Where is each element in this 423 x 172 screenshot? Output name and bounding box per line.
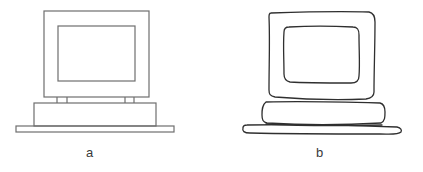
panel-a-drawing xyxy=(0,0,423,172)
panel-label-b: b xyxy=(316,146,323,159)
monitor-screen xyxy=(58,26,135,81)
figure: a b xyxy=(0,0,423,172)
computer-sketch-icon xyxy=(243,12,402,135)
sketch-base-unit xyxy=(262,102,385,125)
sketch-monitor-screen xyxy=(284,26,360,83)
panel-label-a: a xyxy=(86,146,93,159)
computer-precise-icon xyxy=(16,11,174,132)
base-plate xyxy=(16,126,174,132)
monitor-frame xyxy=(44,11,149,97)
base-unit xyxy=(34,103,156,126)
